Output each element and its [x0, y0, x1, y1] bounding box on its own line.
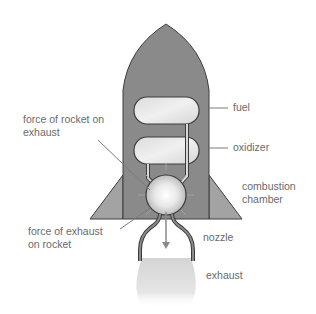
fuel-label: fuel: [233, 101, 250, 114]
rocket-illustration: [0, 0, 316, 314]
left-fin: [90, 175, 123, 219]
force-exhaust-on-rocket-label: force of exhaust on rocket: [28, 225, 103, 251]
oxidizer-label: oxidizer: [233, 141, 269, 154]
force-rocket-on-exhaust-label: force of rocket on exhaust: [23, 113, 104, 139]
oxidizer-tank: [134, 137, 199, 164]
combustion-chamber: [146, 175, 186, 215]
exhaust-label: exhaust: [206, 269, 243, 282]
combustion-chamber-label: combustion chamber: [242, 180, 296, 206]
right-fin: [209, 175, 242, 219]
nozzle-label: nozzle: [203, 231, 233, 244]
exhaust-plume: [136, 258, 195, 308]
rocket-diagram: fuel oxidizer combustion chamber nozzle …: [0, 0, 316, 314]
fuel-tank: [134, 97, 199, 124]
